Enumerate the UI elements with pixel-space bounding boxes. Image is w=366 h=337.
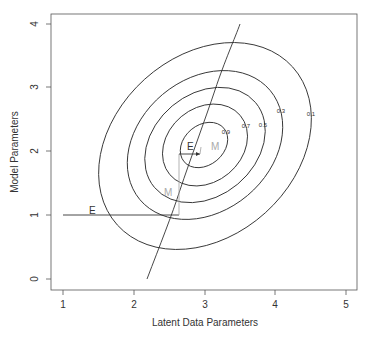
contour-0.5 — [122, 64, 289, 227]
em-contour-chart: 1 2 3 4 5 Latent Data Parameters 0 1 2 3… — [0, 0, 366, 337]
y-tick-label: 0 — [29, 276, 40, 282]
y-axis-label: Model Parameters — [9, 111, 20, 193]
x-tick-label: 5 — [343, 299, 349, 310]
step-label-e: E — [187, 141, 194, 152]
contour-label: 0.3 — [277, 108, 286, 114]
x-axis — [63, 290, 346, 295]
contours — [57, 0, 353, 292]
y-axis — [46, 24, 51, 279]
step-label-m: M — [211, 141, 219, 152]
em-steps — [63, 147, 201, 215]
x-tick-label: 1 — [60, 299, 66, 310]
contour-label: 0.5 — [259, 122, 268, 128]
x-tick-label: 3 — [202, 299, 208, 310]
arrowhead-icon — [196, 152, 200, 156]
contour-0.3 — [97, 40, 312, 250]
step-label-e: E — [89, 205, 96, 216]
y-tick-label: 2 — [29, 148, 40, 154]
step-label-m: M — [164, 187, 172, 198]
y-tick-label: 3 — [29, 84, 40, 90]
contour-0.1 — [57, 0, 353, 292]
contour-0.7 — [146, 87, 264, 203]
x-tick-label: 2 — [131, 299, 137, 310]
contour-label: 0.9 — [222, 129, 231, 135]
x-tick-label: 4 — [272, 299, 278, 310]
contour-label: 0.7 — [242, 123, 251, 129]
y-tick-label: 4 — [29, 21, 40, 27]
y-tick-label: 1 — [29, 212, 40, 218]
m-step-2 — [200, 147, 201, 154]
x-axis-label: Latent Data Parameters — [152, 317, 258, 328]
plot-frame — [51, 14, 357, 290]
contour-label: 0.1 — [307, 111, 316, 117]
